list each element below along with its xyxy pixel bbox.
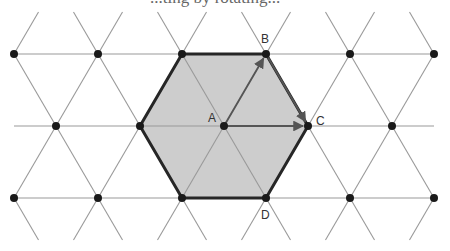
lattice-stub-line	[14, 198, 39, 240]
lattice-point-dot	[94, 194, 102, 202]
lattice-point-dot	[388, 122, 396, 130]
lattice-stub-line	[98, 198, 123, 240]
lattice-diagonal-line	[14, 54, 56, 126]
lattice-point-dot	[178, 50, 186, 58]
lattice-diagonal-line	[14, 126, 56, 198]
lattice-point-dot	[346, 50, 354, 58]
point-label-D: D	[261, 208, 270, 222]
point-label-C: C	[316, 114, 325, 128]
lattice-stub-line	[326, 198, 351, 240]
lattice-point-dot	[52, 122, 60, 130]
lattice-stub-line	[350, 198, 375, 240]
point-label-A: A	[208, 111, 216, 125]
point-label-B: B	[261, 32, 269, 46]
triangular-lattice-diagram: ABCD	[0, 0, 450, 251]
lattice-stub-line	[326, 12, 351, 54]
lattice-stub-line	[158, 198, 183, 240]
lattice-stub-line	[350, 12, 375, 54]
lattice-stub-line	[74, 198, 99, 240]
lattice-point-dot	[346, 194, 354, 202]
lattice-diagonal-line	[98, 54, 140, 126]
lattice-point-dot	[262, 194, 270, 202]
lattice-point-dot	[304, 122, 312, 130]
lattice-diagonal-line	[308, 126, 350, 198]
lattice-diagonal-line	[98, 126, 140, 198]
lattice-point-dot	[178, 194, 186, 202]
lattice-point-dot	[136, 122, 144, 130]
lattice-point-dot	[220, 122, 228, 130]
lattice-diagonal-line	[392, 126, 434, 198]
lattice-diagonal-line	[56, 54, 98, 126]
lattice-stub-line	[410, 12, 435, 54]
lattice-point-dot	[262, 50, 270, 58]
lattice-stub-line	[182, 12, 207, 54]
lattice-stub-line	[14, 12, 39, 54]
lattice-stub-line	[266, 198, 291, 240]
lattice-diagonal-line	[308, 54, 350, 126]
lattice-stub-line	[98, 12, 123, 54]
lattice-diagonal-line	[350, 54, 392, 126]
lattice-diagonal-line	[350, 126, 392, 198]
lattice-point-dot	[430, 194, 438, 202]
lattice-point-dot	[10, 50, 18, 58]
lattice-stub-line	[158, 12, 183, 54]
lattice-diagonal-line	[392, 54, 434, 126]
lattice-point-dot	[430, 50, 438, 58]
lattice-stub-line	[182, 198, 207, 240]
lattice-point-dot	[10, 194, 18, 202]
lattice-stub-line	[266, 12, 291, 54]
lattice-point-dot	[94, 50, 102, 58]
lattice-diagonal-line	[56, 126, 98, 198]
lattice-stub-line	[410, 198, 435, 240]
lattice-stub-line	[74, 12, 99, 54]
